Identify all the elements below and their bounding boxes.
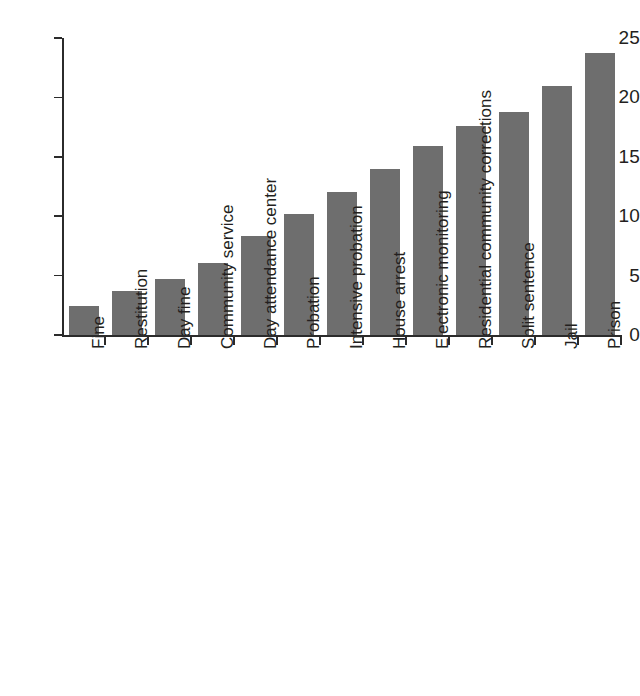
y-axis-tick-label: 25 <box>594 28 640 47</box>
y-axis-tick <box>54 334 62 336</box>
bar-11 <box>542 86 572 335</box>
y-axis-tick <box>54 215 62 217</box>
y-axis-tick <box>54 97 62 99</box>
x-axis-category-label: Day fine <box>176 287 193 349</box>
x-axis-category-label: Split sentence <box>520 242 537 349</box>
plot-area: 0510152025FineRestitutionDay fineCommuni… <box>0 0 640 696</box>
bar-12 <box>585 53 615 335</box>
x-axis-line <box>62 335 622 337</box>
x-axis-category-label: Fine <box>90 316 107 349</box>
x-axis-category-label: Restitution <box>133 269 150 349</box>
x-axis-category-label: Day attendance center <box>262 178 279 349</box>
x-axis-category-label: Residential community corrections <box>477 90 494 349</box>
y-axis-tick <box>54 156 62 158</box>
y-axis-tick <box>54 37 62 39</box>
x-axis-category-label: Prison <box>606 301 623 349</box>
x-axis-category-label: Electronic monitoring <box>434 190 451 349</box>
y-axis-line <box>62 38 64 336</box>
x-axis-category-label: Probation <box>305 276 322 349</box>
x-axis-category-label: Community service <box>219 204 236 349</box>
y-axis-tick <box>54 275 62 277</box>
bar-chart: 0510152025FineRestitutionDay fineCommuni… <box>0 0 640 696</box>
x-axis-category-label: Intensive probation <box>348 205 365 349</box>
